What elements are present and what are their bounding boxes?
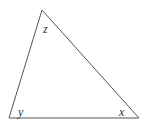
angle-label-x: x (118, 105, 125, 119)
angle-label-y: y (17, 105, 24, 119)
triangle-diagram: z y x (0, 0, 146, 127)
triangle (9, 10, 139, 118)
angle-label-z: z (42, 22, 48, 36)
